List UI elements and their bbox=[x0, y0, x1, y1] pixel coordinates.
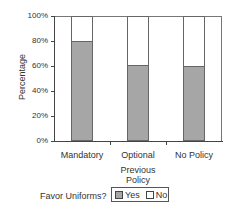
legend-title: Favor Uniforms? bbox=[40, 191, 107, 201]
legend: Yes No bbox=[111, 187, 169, 202]
x-tick-label: Optional bbox=[108, 150, 168, 160]
bar-segment-yes bbox=[128, 65, 148, 140]
y-tick-mark bbox=[51, 141, 55, 142]
bar-optional bbox=[127, 16, 149, 141]
bar-segment-yes bbox=[72, 41, 92, 140]
y-tick-mark bbox=[51, 41, 55, 42]
legend-swatch-yes bbox=[115, 191, 123, 199]
bar-no-policy bbox=[183, 16, 205, 141]
x-tick-mark bbox=[110, 141, 111, 145]
y-tick-mark bbox=[51, 66, 55, 67]
x-axis-label: Previous Policy bbox=[108, 165, 168, 185]
x-axis bbox=[54, 141, 223, 142]
bar-segment-yes bbox=[184, 66, 204, 140]
y-tick-mark bbox=[51, 16, 55, 17]
y-axis-label: Percentage bbox=[17, 47, 27, 107]
y-tick-label: 80% bbox=[18, 36, 48, 45]
x-tick-mark bbox=[166, 141, 167, 145]
y-tick-label: 20% bbox=[18, 111, 48, 120]
legend-label-yes: Yes bbox=[125, 190, 140, 200]
legend-swatch-no bbox=[146, 191, 154, 199]
y-tick-mark bbox=[51, 91, 55, 92]
bar-mandatory bbox=[71, 16, 93, 141]
y-axis bbox=[54, 16, 55, 142]
y-tick-label: 100% bbox=[18, 11, 48, 20]
x-tick-label: No Policy bbox=[164, 150, 224, 160]
legend-label-no: No bbox=[156, 190, 168, 200]
y-tick-mark bbox=[51, 116, 55, 117]
x-tick-label: Mandatory bbox=[52, 150, 112, 160]
y-tick-label: 0% bbox=[18, 136, 48, 145]
